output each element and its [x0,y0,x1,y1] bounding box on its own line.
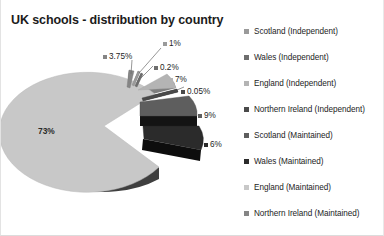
data-label-wales-maintained-text: 6% [210,140,222,149]
legend-swatch-wales-independent [244,55,249,60]
legend-label-ni-independent: Northern Ireland (Independent) [254,105,365,114]
legend-item-ni-maintained[interactable]: Northern Ireland (Maintained) [244,200,384,226]
legend-swatch-england-independent [244,81,249,86]
label-marker-england-independent [169,78,173,82]
data-label-scotland-independent-text: 1% [169,39,181,48]
data-label-scotland-independent: 1% [163,39,181,48]
label-marker-ni-independent [181,90,185,94]
data-label-scotland-maintained: 9% [198,111,216,120]
legend-item-england-maintained[interactable]: England (Maintained) [244,174,384,200]
leader-line-wales-independent [141,66,153,78]
data-label-england-independent: 7% [169,75,187,84]
legend-swatch-england-maintained [244,185,249,190]
data-label-wales-independent-text: 0.2% [160,63,179,72]
label-marker-scotland-maintained [198,114,202,118]
label-marker-wales-independent [154,66,158,70]
legend-label-wales-independent: Wales (Independent) [254,53,329,62]
chart-legend: Scotland (Independent) Wales (Independen… [244,18,384,226]
legend-item-scotland-maintained[interactable]: Scotland (Maintained) [244,122,384,148]
legend-item-england-independent[interactable]: England (Independent) [244,70,384,96]
legend-swatch-ni-independent [244,107,249,112]
legend-label-england-maintained: England (Maintained) [254,183,331,192]
data-label-wales-independent: 0.2% [154,63,179,72]
data-label-ni-maintained-text: 3.75% [109,52,132,61]
legend-swatch-scotland-independent [244,29,249,34]
pie-chart-figure: UK schools - distribution by country [0,0,384,236]
legend-item-wales-maintained[interactable]: Wales (Maintained) [244,148,384,174]
data-label-ni-independent-text: 0.05% [187,87,210,96]
chart-title: UK schools - distribution by country [11,13,223,27]
legend-swatch-scotland-maintained [244,133,249,138]
legend-swatch-ni-maintained [244,211,249,216]
slice-top-england-maintained [1,72,159,192]
plot-area: 3.75% 1% 0.2% 7% 0.05% 9% 6% 73% [1,30,233,236]
legend-item-ni-independent[interactable]: Northern Ireland (Independent) [244,96,384,122]
legend-label-scotland-independent: Scotland (Independent) [254,27,338,36]
data-label-scotland-maintained-text: 9% [204,111,216,120]
label-marker-scotland-independent [163,42,167,46]
legend-item-scotland-independent[interactable]: Scotland (Independent) [244,18,384,44]
slice-wall-scotland-maintained [140,116,197,126]
data-label-england-independent-text: 7% [175,75,187,84]
legend-label-ni-maintained: Northern Ireland (Maintained) [254,209,360,218]
legend-item-wales-independent[interactable]: Wales (Independent) [244,44,384,70]
legend-label-scotland-maintained: Scotland (Maintained) [254,131,333,140]
label-marker-wales-maintained [204,143,208,147]
label-marker-ni-maintained [103,55,107,59]
legend-swatch-wales-maintained [244,159,249,164]
data-label-england-maintained: 73% [38,126,55,136]
legend-label-england-independent: England (Independent) [254,79,336,88]
data-label-wales-maintained: 6% [204,140,222,149]
data-label-ni-maintained: 3.75% [103,52,132,61]
legend-label-wales-maintained: Wales (Maintained) [254,157,323,166]
data-label-ni-independent: 0.05% [181,87,210,96]
